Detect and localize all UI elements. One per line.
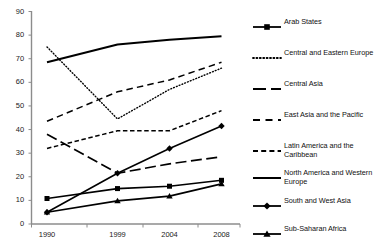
- legend-item-label: East Asia and the Pacific: [282, 110, 363, 119]
- legend-item-label: Central and Eastern Europe: [282, 48, 373, 57]
- data-point-marker: [45, 196, 50, 201]
- y-axis-tick-label: 80: [8, 30, 24, 39]
- data-series: [44, 181, 225, 215]
- legend-swatch: [252, 111, 282, 121]
- series-line: [47, 47, 222, 119]
- legend-item-label: Central Asia: [282, 79, 323, 88]
- data-point-marker: [167, 184, 172, 189]
- legend-item[interactable]: North America and Western Europe: [252, 168, 372, 187]
- legend-swatch-icon: [252, 115, 282, 125]
- legend-item[interactable]: Arab States: [252, 17, 322, 28]
- data-series: [47, 36, 222, 62]
- y-axis-tick-label: 40: [8, 125, 24, 134]
- y-axis-tick-label: 20: [8, 172, 24, 181]
- legend-swatch-icon: [252, 146, 282, 156]
- legend-item-label: North America and Western Europe: [282, 168, 372, 187]
- legend-item[interactable]: Latin America and the Caribbean: [252, 141, 354, 160]
- x-axis-tick-label: 1999: [101, 230, 135, 239]
- chart-legend: Arab StatesCentral and Eastern EuropeCen…: [252, 0, 388, 244]
- legend-item-label: Sub-Saharan Africa: [282, 224, 346, 233]
- legend-swatch: [252, 49, 282, 59]
- legend-swatch-icon: [252, 22, 282, 32]
- legend-item[interactable]: East Asia and the Pacific: [252, 110, 363, 121]
- legend-item-label: South and West Asia: [282, 196, 351, 205]
- legend-swatch-icon: [252, 173, 282, 183]
- y-axis-tick-label: 60: [8, 77, 24, 86]
- legend-item[interactable]: South and West Asia: [252, 196, 351, 207]
- data-point-marker: [115, 186, 120, 191]
- x-axis-tick-label: 2008: [205, 230, 239, 239]
- data-series-layer: [44, 36, 225, 215]
- legend-item[interactable]: Central and Eastern Europe: [252, 48, 373, 59]
- data-point-marker: [166, 145, 172, 151]
- legend-marker: [264, 24, 270, 30]
- line-chart: 0102030405060708090 1990199920042008 Ara…: [0, 0, 388, 244]
- data-series: [44, 123, 225, 216]
- data-series: [47, 111, 222, 149]
- y-axis-tick-label: 90: [8, 7, 24, 16]
- y-axis-tick-label: 70: [8, 54, 24, 63]
- legend-item[interactable]: Central Asia: [252, 79, 323, 90]
- series-line: [47, 36, 222, 62]
- legend-swatch: [252, 142, 282, 152]
- y-axis-tick-label: 30: [8, 148, 24, 157]
- legend-swatch-icon: [252, 84, 282, 94]
- y-axis-tick-label: 0: [8, 219, 24, 228]
- x-axis-tick-label: 2004: [153, 230, 187, 239]
- legend-swatch-icon: [252, 229, 282, 239]
- data-point-marker: [218, 123, 224, 129]
- legend-swatch-icon: [252, 53, 282, 63]
- series-line: [47, 62, 222, 121]
- y-axis-tick-label: 10: [8, 195, 24, 204]
- legend-swatch: [252, 80, 282, 90]
- legend-swatch-icon: [252, 201, 282, 211]
- legend-marker: [263, 202, 270, 209]
- legend-item[interactable]: Sub-Saharan Africa: [252, 224, 346, 235]
- series-line: [47, 134, 222, 173]
- legend-swatch: [252, 169, 282, 179]
- data-series: [47, 62, 222, 121]
- legend-swatch: [252, 225, 282, 235]
- legend-swatch: [252, 18, 282, 28]
- legend-item-label: Arab States: [282, 17, 322, 26]
- x-axis-tick-label: 1990: [30, 230, 64, 239]
- y-axis-tick-label: 50: [8, 101, 24, 110]
- series-line: [47, 111, 222, 149]
- data-point-marker: [114, 170, 120, 176]
- legend-swatch: [252, 197, 282, 207]
- legend-item-label: Latin America and the Caribbean: [282, 141, 354, 160]
- data-series: [47, 134, 222, 173]
- data-series: [47, 47, 222, 119]
